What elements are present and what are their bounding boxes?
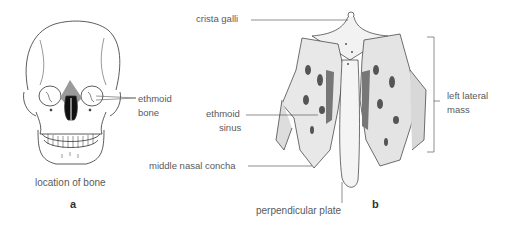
ethmoid-sinus-label-line2: sinus xyxy=(219,122,241,133)
perpendicular-plate-label: perpendicular plate xyxy=(256,205,341,216)
ethmoid-bone-label-line1: ethmoid xyxy=(138,93,172,104)
left-lateral-mass-bracket xyxy=(427,37,440,152)
crista-galli-label: crista galli xyxy=(196,13,238,24)
diagram-canvas xyxy=(0,0,506,230)
panel-a-letter: a xyxy=(70,198,76,210)
panel-b-letter: b xyxy=(372,198,379,210)
ethmoid-illustration xyxy=(276,12,426,187)
ethmoid-bone-label-line2: bone xyxy=(138,107,159,118)
skull-illustration xyxy=(24,21,121,164)
location-caption: location of bone xyxy=(35,177,106,188)
ethmoid-sinus-label-line1: ethmoid xyxy=(206,108,240,119)
left-lateral-mass-label-line2: mass xyxy=(447,104,470,115)
left-lateral-mass-label-line1: left lateral xyxy=(447,90,488,101)
middle-nasal-concha-label: middle nasal concha xyxy=(149,160,236,171)
